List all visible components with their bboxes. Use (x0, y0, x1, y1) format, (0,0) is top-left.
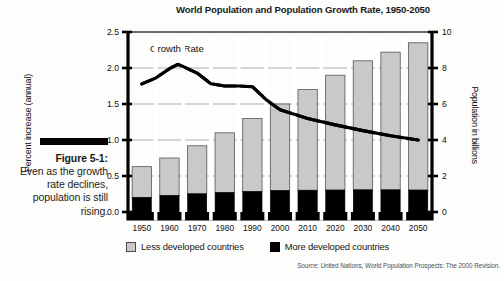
x-tick-label: 1990 (243, 223, 262, 233)
x-tick-label: 1950 (132, 223, 151, 233)
y-tick-label-left: 2.0 (107, 63, 119, 73)
bar-segment-more-developed (353, 190, 372, 212)
chart-source-note: Source: United Nations, World Population… (190, 262, 500, 269)
bar-segment-more-developed (409, 190, 428, 212)
bar-gap-stripe (209, 33, 213, 212)
legend-swatch-less-developed (126, 242, 136, 252)
bar-segment-more-developed (298, 190, 317, 212)
x-axis-separator (264, 212, 268, 221)
y-axis-left-title: Percent increase (annual) (23, 48, 33, 198)
legend-label-more-developed: More developed countries (285, 241, 389, 252)
figure-5-1: Figure 5-1: Even as the growth rate decl… (0, 0, 504, 281)
x-axis-separator (237, 212, 241, 221)
bar-segment-less-developed (298, 90, 317, 191)
x-tick-label: 2040 (381, 223, 400, 233)
legend-swatch-more-developed (270, 242, 280, 252)
bar-segment-less-developed (215, 133, 234, 193)
y-tick-label-right: 6 (442, 99, 447, 109)
bar-segment-more-developed (326, 190, 345, 212)
y-tick-label-right: 10 (442, 27, 452, 37)
bar-segment-less-developed (243, 118, 262, 191)
y-tick-label-left: 0.0 (107, 207, 119, 217)
y-tick-label-left: 1.5 (107, 99, 119, 109)
bar-gap-stripe (181, 33, 185, 212)
x-axis-separator (375, 212, 379, 221)
legend-label-less-developed: Less developed countries (141, 241, 244, 252)
y-tick-label-right: 0 (442, 207, 447, 217)
bar-segment-less-developed (409, 43, 428, 190)
legend-item-more-developed: More developed countries (270, 241, 389, 252)
x-tick-label: 2020 (326, 223, 345, 233)
x-axis-band (126, 212, 433, 221)
chart-plot-area: Growth Rate0.00.51.01.52.02.502468101950… (0, 0, 504, 281)
x-tick-label: 1970 (188, 223, 207, 233)
bar-gap-stripe (264, 33, 268, 212)
x-tick-label: 2000 (271, 223, 290, 233)
bar-segment-more-developed (243, 191, 262, 212)
bar-segment-more-developed (381, 190, 400, 212)
x-tick-label: 1980 (215, 223, 234, 233)
y-tick-label-left: 1.0 (107, 135, 119, 145)
x-axis-separator (292, 212, 296, 221)
x-axis-separator (154, 212, 158, 221)
x-axis-separator (209, 212, 213, 221)
source-text: United Nations, World Population Prospec… (319, 262, 500, 269)
y-axis-right-title: Population in billions (470, 50, 480, 200)
bar-gap-stripe (154, 33, 158, 212)
bar-segment-less-developed (160, 158, 179, 195)
x-tick-label: 2010 (298, 223, 317, 233)
bar-gap-stripe (292, 33, 296, 212)
bar-segment-less-developed (353, 61, 372, 190)
x-tick-label: 2050 (409, 223, 428, 233)
bar-gap-stripe (347, 33, 351, 212)
x-tick-label: 1960 (160, 223, 179, 233)
bar-segment-more-developed (160, 195, 179, 212)
growth-rate-label: Growth Rate (150, 43, 204, 54)
source-prefix: Source: (297, 262, 319, 269)
y-tick-label-left: 2.5 (107, 27, 119, 37)
x-axis-separator (347, 212, 351, 221)
bar-segment-less-developed (381, 52, 400, 190)
chart-legend: Less developed countries More developed … (126, 241, 456, 252)
y-tick-label-left: 0.5 (107, 171, 119, 181)
bar-segment-less-developed (326, 75, 345, 190)
legend-item-less-developed: Less developed countries (126, 241, 244, 252)
x-tick-label: 2030 (354, 223, 373, 233)
bar-gap-stripe (375, 33, 379, 212)
bar-segment-less-developed (187, 146, 206, 194)
bar-segment-more-developed (187, 194, 206, 212)
bar-segment-more-developed (270, 191, 289, 212)
bar-gap-stripe (237, 33, 241, 212)
bar-segment-more-developed (132, 197, 151, 212)
x-axis-separator (403, 212, 407, 221)
x-axis-separator (181, 212, 185, 221)
y-tick-label-right: 4 (442, 135, 447, 145)
y-tick-label-right: 2 (442, 171, 447, 181)
bar-segment-less-developed (270, 104, 289, 191)
bar-gap-stripe (402, 33, 406, 212)
x-axis-separator (320, 212, 324, 221)
y-tick-label-right: 8 (442, 63, 447, 73)
bar-segment-more-developed (215, 193, 234, 212)
bar-segment-less-developed (132, 167, 151, 198)
chart-svg: Growth Rate0.00.51.01.52.02.502468101950… (0, 0, 504, 281)
